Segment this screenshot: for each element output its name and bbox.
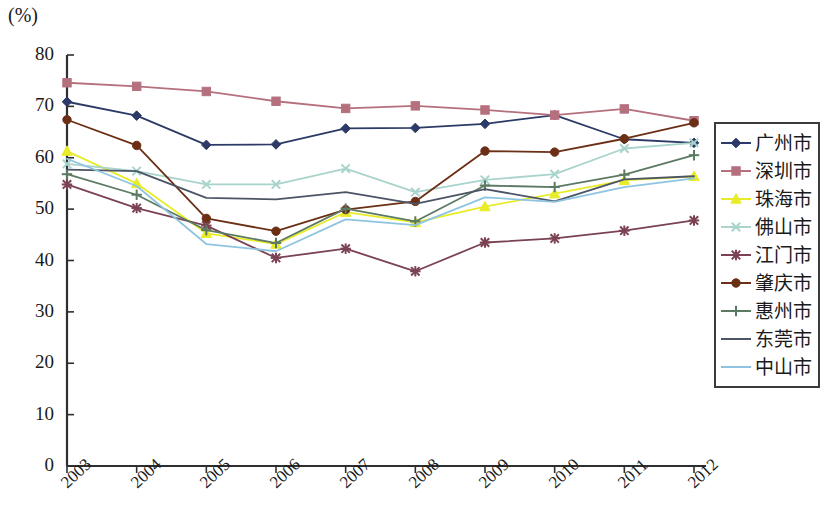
data-point	[481, 106, 489, 114]
data-point	[272, 97, 280, 105]
legend-marker-icon	[721, 219, 751, 235]
data-point	[341, 124, 351, 134]
data-point	[132, 141, 140, 149]
legend-marker-icon	[721, 247, 751, 263]
data-point	[62, 146, 72, 155]
y-tick-label: 80	[8, 43, 54, 65]
plot-area	[0, 0, 828, 529]
y-axis-unit-label: (%)	[8, 4, 38, 27]
data-point	[202, 87, 210, 95]
legend-marker-icon	[721, 303, 751, 319]
data-point	[411, 102, 419, 110]
y-tick-label: 70	[8, 94, 54, 116]
legend-marker-icon	[721, 275, 751, 291]
legend-item[interactable]: 深圳市	[716, 157, 818, 185]
legend-swatch-icon	[721, 247, 751, 263]
legend-item[interactable]: 佛山市	[716, 213, 818, 241]
data-point	[271, 140, 281, 150]
data-point	[620, 105, 628, 113]
data-point	[731, 194, 741, 203]
series-line	[67, 155, 694, 243]
legend-item[interactable]: 珠海市	[716, 185, 818, 213]
data-point	[341, 104, 349, 112]
legend-label: 东莞市	[755, 330, 812, 349]
legend-label: 江门市	[755, 246, 812, 265]
data-point	[732, 167, 740, 175]
data-point	[731, 138, 741, 148]
data-point	[62, 97, 72, 107]
data-point	[732, 279, 740, 287]
legend-swatch-icon	[721, 275, 751, 291]
legend-label: 深圳市	[755, 162, 812, 181]
y-tick-label: 30	[8, 300, 54, 322]
legend-swatch-icon	[721, 359, 751, 375]
y-tick-label: 40	[8, 249, 54, 271]
data-point	[202, 140, 212, 150]
legend-swatch-icon	[721, 331, 751, 347]
data-point	[272, 227, 280, 235]
data-point	[690, 119, 698, 127]
legend-label: 珠海市	[755, 190, 812, 209]
y-tick-label: 20	[8, 351, 54, 373]
legend-label: 广州市	[755, 134, 812, 153]
series-line	[67, 83, 694, 121]
data-point	[481, 147, 489, 155]
y-tick-label: 50	[8, 197, 54, 219]
legend-label: 中山市	[755, 358, 812, 377]
data-point	[550, 148, 558, 156]
line-chart: (%) 01020304050607080 200320042005200620…	[0, 0, 828, 529]
legend-item[interactable]: 广州市	[716, 129, 818, 157]
data-point	[63, 116, 71, 124]
data-point	[63, 79, 71, 87]
legend: 广州市深圳市珠海市佛山市江门市肇庆市惠州市东莞市中山市	[714, 122, 820, 388]
data-point	[550, 111, 558, 119]
series-2	[63, 79, 698, 125]
legend-item[interactable]: 江门市	[716, 241, 818, 269]
legend-item[interactable]: 肇庆市	[716, 269, 818, 297]
legend-label: 佛山市	[755, 218, 812, 237]
legend-marker-icon	[721, 191, 751, 207]
legend-item[interactable]: 东莞市	[716, 325, 818, 353]
series-1	[62, 97, 699, 150]
legend-item[interactable]: 中山市	[716, 353, 818, 381]
legend-marker-icon	[721, 135, 751, 151]
data-point	[480, 119, 490, 129]
series-5	[62, 179, 699, 276]
data-point	[620, 135, 628, 143]
series-8	[67, 170, 694, 204]
y-tick-label: 60	[8, 146, 54, 168]
legend-swatch-icon	[721, 191, 751, 207]
legend-marker-icon	[721, 163, 751, 179]
data-point	[132, 82, 140, 90]
data-point	[132, 111, 142, 121]
legend-label: 肇庆市	[755, 274, 812, 293]
legend-swatch-icon	[721, 135, 751, 151]
legend-swatch-icon	[721, 219, 751, 235]
data-point	[202, 214, 210, 222]
y-tick-label: 10	[8, 403, 54, 425]
series-line	[67, 170, 694, 204]
legend-label: 惠州市	[755, 302, 812, 321]
legend-swatch-icon	[721, 303, 751, 319]
legend-item[interactable]: 惠州市	[716, 297, 818, 325]
data-point	[411, 123, 421, 133]
y-tick-label: 0	[8, 454, 54, 476]
series-line	[67, 102, 694, 145]
legend-swatch-icon	[721, 163, 751, 179]
